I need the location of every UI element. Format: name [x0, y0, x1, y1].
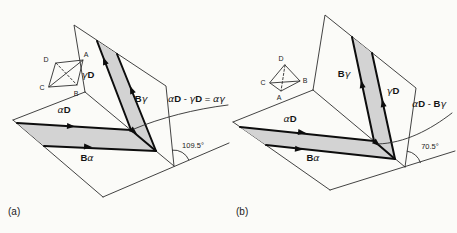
panel-a-gammaD-label: γD — [82, 70, 95, 80]
panel-a-drawing — [13, 25, 229, 197]
panel-b-tetrahedron-vertex-B: B — [303, 77, 308, 84]
panel-a-angle-value: 109.5° — [182, 142, 204, 150]
panel-a-thompson-tetrahedron — [49, 60, 83, 87]
panel-a-reaction-label: αD - γD = αγ — [168, 94, 225, 104]
figure-line-art — [0, 0, 457, 233]
panel-b-angle-value: 70.5° — [421, 143, 439, 151]
panel-b-angle-arc — [407, 151, 420, 163]
panel-a-Bgamma-label: Bγ — [135, 94, 148, 104]
panel-b-tetrahedron-edge-CB — [270, 81, 300, 83]
panel-b-tetrahedron-vertex-C: C — [260, 79, 265, 86]
panel-b-tetrahedron-vertex-A: A — [277, 94, 282, 101]
panel-a-caption: (a) — [8, 207, 20, 217]
panel-a-tetrahedron-vertex-B: B — [74, 90, 79, 97]
panel-a-tetrahedron-vertex-A: A — [84, 51, 89, 58]
panel-b-Bgamma-label: Bγ — [338, 69, 351, 79]
figure-dislocation-reactions: αD Bα γD Bγ αD - γD = αγ 109.5° (a) D A … — [0, 0, 457, 233]
panel-a-Balpha-label: Bα — [80, 153, 93, 163]
panel-a-horizontal-plane-front-edge — [103, 143, 229, 197]
panel-b-tetrahedron-outline — [270, 65, 300, 91]
panel-b-reaction-label: αD - Bγ — [412, 99, 446, 109]
panel-a-tetrahedron-hidden-edge-DB — [56, 63, 77, 85]
panel-a-alphaD-label: αD — [57, 105, 70, 115]
panel-b-horizontal-plane-back-edge — [233, 90, 313, 122]
panel-b-Balpha-label: Bα — [306, 153, 319, 163]
panel-a-angle-arc — [172, 150, 188, 160]
panel-b-thompson-tetrahedron — [270, 65, 300, 91]
panel-b-caption: (b) — [236, 207, 248, 217]
panel-a-tetrahedron-vertex-D: D — [43, 56, 48, 63]
panel-b-tetrahedron-vertex-D: D — [278, 55, 283, 62]
panel-b-alphaD-label: αD — [283, 114, 296, 124]
panel-b-gammaD-label: γD — [387, 86, 400, 96]
panel-a-tetrahedron-vertex-C: C — [39, 84, 44, 91]
panel-a-reaction-leader-line — [134, 105, 228, 129]
